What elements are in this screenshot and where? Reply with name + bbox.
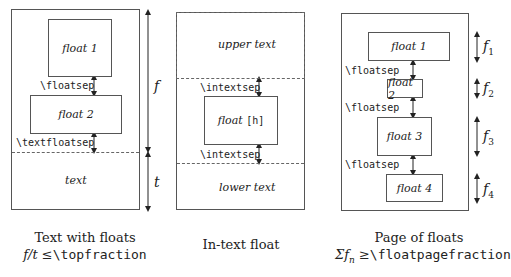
dim-f4-label: f4 [483,181,494,200]
lower-text-separator-line [177,163,304,164]
floatsep-label: \floatsep [40,80,94,91]
caption-formula: Σfn ≥\floatpagefraction [335,246,503,269]
pf-float-2-label: float 2 [388,76,422,102]
float-2-label: float 2 [58,108,93,121]
dim-f1-label: f1 [483,38,494,57]
float-1-box: float 1 [48,19,112,77]
float-h-option: [h] [246,115,264,126]
dim-t-label: t [154,174,160,190]
float-1-label: float 1 [62,42,97,55]
pf-float-2-box: float 2 [387,79,423,98]
caption-title: Page of floats [335,229,503,246]
pf-float-3-label: float 3 [387,130,422,143]
lower-text-label: lower text [219,181,275,194]
dim-f3-label: f3 [483,128,494,147]
pf-float-4-label: float 4 [397,182,432,195]
caption-title: In-text float [166,236,316,253]
formula-math: Σf [335,247,349,262]
caption-formula: f/t ≤\topfraction [10,246,160,263]
dim-f-label: f [154,78,159,94]
text-separator-line [12,152,139,153]
caption-page-of-floats: Page of floats Σfn ≥\floatpagefraction [335,229,503,269]
formula-command: \topfraction [53,247,147,262]
upper-text-label: upper text [218,38,276,51]
caption-text-with-floats: Text with floats f/t ≤\topfraction [10,229,160,263]
float-2-box: float 2 [30,95,122,134]
pf-float-1-box: float 1 [368,32,450,61]
text-label: text [65,174,87,187]
intextsep-top-label: \intextsep [200,82,260,93]
pf-float-4-box: float 4 [386,174,443,202]
textfloatsep-label: \textfloatsep [16,137,94,148]
dim-f2-label: f2 [483,80,494,99]
pf-float-1-label: float 1 [391,40,426,53]
float-h-label: float [218,114,243,127]
intextsep-bottom-label: \intextsep [200,149,260,160]
pf-floatsep-1-label: \floatsep [345,65,399,76]
caption-in-text-float: In-text float [166,236,316,253]
pf-floatsep-2-label: \floatsep [345,102,399,113]
float-h-box: float [h] [204,96,278,145]
caption-title: Text with floats [10,229,160,246]
formula-command: \floatpagefraction [370,247,511,262]
formula-math: f/t ≤ [23,247,52,262]
pf-float-3-box: float 3 [377,117,432,156]
pf-floatsep-3-label: \floatsep [345,159,399,170]
formula-relation: ≥ [355,247,370,262]
